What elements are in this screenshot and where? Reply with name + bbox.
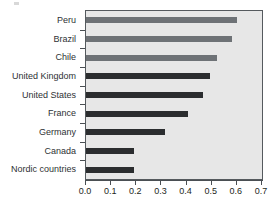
bar-row	[86, 160, 262, 179]
bar-row	[86, 123, 262, 142]
bar-row	[86, 30, 262, 49]
bar	[86, 92, 203, 98]
y-axis-label: Canada	[44, 142, 76, 161]
bar	[86, 111, 188, 117]
y-axis-label: Chile	[55, 48, 76, 67]
y-axis-tick	[80, 86, 85, 87]
x-axis-tick-label: 0.2	[123, 186, 147, 196]
y-axis-label: Peru	[57, 11, 76, 30]
y-axis-label: Brazil	[53, 30, 76, 49]
x-axis-tick-label: 0.1	[98, 186, 122, 196]
y-axis-tick	[80, 104, 85, 105]
x-axis-tick	[211, 181, 212, 185]
x-axis-tick	[160, 181, 161, 185]
x-axis-tick-label: 0.0	[73, 186, 97, 196]
bar	[86, 73, 210, 79]
x-axis-tick-label: 0.6	[224, 186, 248, 196]
y-axis-label: United States	[22, 86, 76, 105]
y-axis-label: Nordic countries	[11, 160, 76, 179]
bar-row	[86, 11, 262, 30]
bar	[86, 17, 237, 23]
scan-artifact	[14, 2, 19, 5]
x-axis-tick	[135, 181, 136, 185]
bar	[86, 148, 134, 154]
y-axis-tick	[80, 48, 85, 49]
x-axis-tick	[110, 181, 111, 185]
x-axis-tick-label: 0.3	[148, 186, 172, 196]
x-axis-tick-label: 0.5	[199, 186, 223, 196]
bar-row	[86, 48, 262, 67]
bar	[86, 36, 232, 42]
bar-chart: PeruBrazilChileUnited KingdomUnited Stat…	[0, 0, 272, 206]
y-axis-tick	[80, 67, 85, 68]
y-axis-label: France	[48, 104, 76, 123]
y-axis-tick	[80, 142, 85, 143]
x-axis-tick-label: 0.4	[174, 186, 198, 196]
bar-row	[86, 86, 262, 105]
y-axis-tick	[80, 160, 85, 161]
x-axis-tick	[85, 181, 86, 185]
y-axis-tick	[80, 123, 85, 124]
y-axis-label: Germany	[39, 123, 76, 142]
y-axis-category-labels: PeruBrazilChileUnited KingdomUnited Stat…	[0, 11, 80, 179]
bar-row	[86, 142, 262, 161]
x-axis-tick-label: 0.7	[249, 186, 272, 196]
bar	[86, 55, 217, 61]
bar	[86, 167, 134, 173]
bar	[86, 129, 165, 135]
bar-row	[86, 104, 262, 123]
y-axis-label: United Kingdom	[12, 67, 76, 86]
bars-layer	[86, 11, 262, 179]
x-axis-tick	[186, 181, 187, 185]
x-axis-tick	[261, 181, 262, 185]
bar-row	[86, 67, 262, 86]
x-axis-tick	[236, 181, 237, 185]
y-axis-tick	[80, 30, 85, 31]
